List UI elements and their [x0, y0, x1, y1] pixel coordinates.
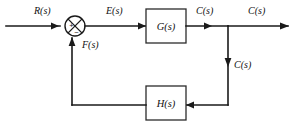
arrowhead-system-output: [280, 22, 289, 29]
feedback-block-label: H(s): [156, 98, 176, 110]
label-system-output-signal: C(s): [248, 5, 266, 17]
label-forward-output-signal: C(s): [196, 5, 214, 17]
arrowhead-branch: [225, 58, 232, 67]
arrowhead-feedback: [69, 37, 76, 46]
block-diagram-canvas: + − G(s) H(s) R(s) E(s) C(s) C(s) C(s): [0, 0, 295, 127]
label-error-signal: E(s): [105, 5, 123, 17]
arrowhead-input: [51, 23, 59, 30]
arrowhead-forward-output: [204, 23, 212, 30]
label-input-signal: R(s): [33, 5, 51, 17]
label-branch-signal: C(s): [234, 59, 252, 71]
label-feedback-signal: F(s): [81, 39, 99, 51]
summing-minus-sign: −: [74, 28, 79, 37]
forward-block-label: G(s): [157, 21, 176, 33]
arrowhead-error: [138, 23, 146, 30]
block-diagram-svg: + − G(s) H(s) R(s) E(s) C(s) C(s) C(s): [0, 0, 295, 127]
arrowhead-into-feedback-block: [186, 102, 194, 109]
